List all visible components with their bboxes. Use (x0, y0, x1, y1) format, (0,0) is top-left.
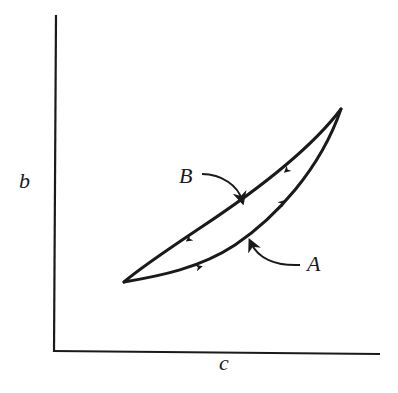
x-axis (53, 351, 380, 354)
path-b-label: B (179, 165, 192, 187)
y-axis (54, 15, 56, 352)
leader-a (251, 243, 300, 265)
path-a-label: A (307, 253, 320, 275)
x-axis-label: c (219, 352, 229, 374)
leader-b (202, 174, 242, 200)
hysteresis-diagram (0, 0, 398, 393)
axes (53, 15, 380, 354)
y-axis-label: b (19, 170, 30, 192)
